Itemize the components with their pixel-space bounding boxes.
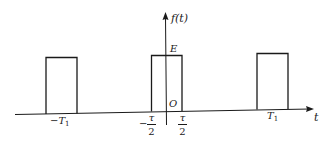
tau-numerator: τ: [180, 113, 186, 123]
x-axis-label-text: t: [314, 111, 318, 124]
denominator: 2: [148, 127, 154, 137]
amplitude-label: E: [170, 44, 177, 54]
tick-label-pos-tau-half: τ 2: [178, 113, 187, 137]
fraction-bar: [178, 124, 187, 125]
pulse-T1: [257, 54, 288, 110]
f-axis: [166, 17, 167, 125]
t-axis: [15, 109, 310, 115]
period-subscript: 1: [65, 120, 69, 128]
period-subscript: 1: [274, 115, 278, 123]
amplitude-label-text: E: [170, 43, 177, 54]
origin-label-text: O: [169, 98, 177, 109]
denominator: 2: [179, 127, 185, 137]
y-axis-label: f(t): [171, 13, 188, 24]
f-axis-arrow-icon: [163, 12, 169, 20]
y-axis-label-text: f(t): [171, 12, 188, 25]
t-axis-arrow-icon: [306, 106, 314, 112]
tick-label-neg-tau-half: τ 2: [147, 113, 156, 137]
origin-label: O: [169, 99, 177, 109]
tick-label-neg-T1: −T1: [50, 116, 70, 128]
period-symbol: T: [267, 110, 274, 121]
tick-label-T1: T1: [267, 111, 278, 123]
tau-numerator: τ: [149, 113, 155, 123]
fraction-bar: [147, 124, 156, 125]
x-axis-label: t: [314, 112, 318, 123]
pulse-train-diagram: [0, 0, 325, 146]
pulse-neg-T1: [46, 58, 77, 115]
